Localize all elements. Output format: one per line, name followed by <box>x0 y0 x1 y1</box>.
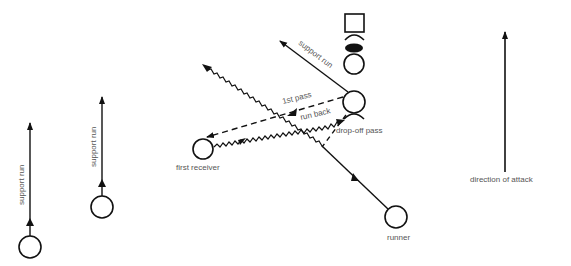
zigzag-run-line <box>206 67 322 146</box>
support-left-mid-arrowhead <box>26 218 34 226</box>
defender-group <box>344 14 364 74</box>
first-receiver-label: first receiver <box>176 163 220 172</box>
defender-arc-icon <box>345 35 364 40</box>
first-pass-label: 1st pass <box>281 90 312 106</box>
first-pass-mid-arrowhead <box>287 108 297 116</box>
zigzag-arrowhead <box>202 64 212 72</box>
first-receiver-player <box>193 139 213 159</box>
support-run-label-mid: support run <box>89 127 98 167</box>
passer-player <box>343 91 365 113</box>
runner-player <box>385 206 407 228</box>
drop-off-pass-label: drop-off pass <box>336 126 383 135</box>
support-player-mid <box>91 196 113 218</box>
defender-square-icon <box>345 14 364 32</box>
ball-icon <box>345 44 363 53</box>
passer-arc-icon <box>344 114 364 119</box>
rugby-drop-off-pass-diagram: support run runner first receiver 1st pa… <box>0 0 571 266</box>
support-player-left <box>19 236 41 258</box>
runner-label: runner <box>387 233 410 242</box>
player-circle-top <box>344 54 364 74</box>
direction-of-attack-label: direction of attack <box>470 175 534 184</box>
run-back-line <box>214 122 340 147</box>
support-mid-mid-arrowhead <box>98 179 106 187</box>
support-run-label-top: support run <box>297 38 335 70</box>
support-run-label-left: support run <box>17 165 26 205</box>
